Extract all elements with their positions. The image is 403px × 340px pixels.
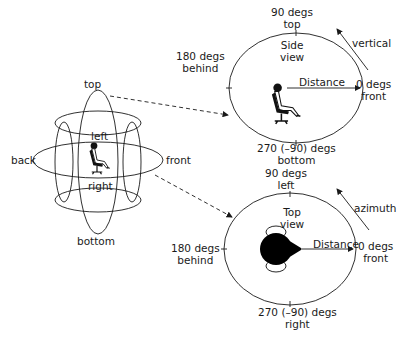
top-top-deg: 90 degs bbox=[265, 167, 307, 179]
top-behind-label: 180 degs behind bbox=[171, 242, 220, 266]
person-chair-icon bbox=[272, 83, 301, 123]
side-front-deg: 0 degs bbox=[356, 78, 391, 90]
top-top-label: 90 degs left bbox=[265, 167, 307, 191]
connector-to-top-view bbox=[155, 175, 232, 217]
front-side-ring bbox=[123, 122, 141, 202]
top-behind-dir: behind bbox=[171, 254, 220, 266]
sphere-label-right: right bbox=[88, 180, 113, 192]
side-behind-dir: behind bbox=[176, 62, 225, 74]
top-view-title-line1: Top bbox=[280, 206, 304, 218]
vertical-rotation-arrow bbox=[337, 29, 368, 70]
back-side-ring bbox=[55, 122, 73, 202]
side-behind-deg: 180 degs bbox=[176, 50, 225, 62]
top-distance-label: Distance bbox=[313, 238, 359, 250]
sphere-label-back: back bbox=[11, 154, 36, 166]
connector-to-side-view bbox=[110, 96, 228, 115]
top-top-dir: left bbox=[265, 179, 307, 191]
side-front-dir: front bbox=[356, 90, 391, 102]
top-bottom-label: 270 (–90) degs right bbox=[258, 306, 337, 330]
sphere-label-top: top bbox=[84, 78, 101, 90]
side-vertical-label: vertical bbox=[352, 37, 391, 49]
side-view-title: Side view bbox=[280, 39, 304, 63]
side-bottom-dir: bottom bbox=[257, 154, 336, 166]
top-front-deg: 0 degs bbox=[358, 240, 393, 252]
sphere-label-bottom: bottom bbox=[77, 235, 115, 247]
side-distance-label: Distance bbox=[299, 76, 345, 88]
side-top-deg: 90 degs bbox=[271, 6, 313, 18]
top-behind-deg: 180 degs bbox=[171, 242, 220, 254]
top-view-title-line2: view bbox=[280, 218, 304, 230]
side-top-dir: top bbox=[271, 18, 313, 30]
side-view-title-line2: view bbox=[280, 51, 304, 63]
top-azimuth-label: azimuth bbox=[354, 202, 397, 214]
person-chair-icon bbox=[90, 142, 110, 174]
top-front-label: 0 degs front bbox=[358, 240, 393, 264]
top-bottom-deg: 270 (–90) degs bbox=[258, 306, 337, 318]
side-top-label: 90 degs top bbox=[271, 6, 313, 30]
top-view-title: Top view bbox=[280, 206, 304, 230]
head-top-view-icon bbox=[260, 226, 301, 272]
sphere-label-left: left bbox=[91, 130, 108, 142]
side-bottom-deg: 270 (–90) degs bbox=[257, 142, 336, 154]
side-front-label: 0 degs front bbox=[356, 78, 391, 102]
top-front-dir: front bbox=[358, 252, 393, 264]
sphere-label-front: front bbox=[166, 154, 191, 166]
side-behind-label: 180 degs behind bbox=[176, 50, 225, 74]
side-bottom-label: 270 (–90) degs bottom bbox=[257, 142, 336, 166]
top-bottom-dir: right bbox=[258, 318, 337, 330]
side-view-title-line1: Side bbox=[280, 39, 304, 51]
